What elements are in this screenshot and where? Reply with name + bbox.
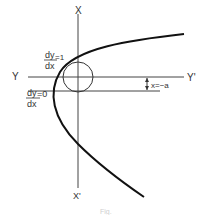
slope-one-value: =1 (55, 53, 65, 62)
axis-label-y-prime: Y' (187, 72, 196, 83)
axis-label-x-prime: X' (73, 191, 81, 201)
slope-zero-denominator: dx (27, 99, 37, 109)
slope-zero-numerator: dy (27, 88, 37, 98)
parabola-curve (54, 34, 184, 197)
slope-one-denominator: dx (45, 61, 55, 71)
slope-zero-value: =0 (37, 89, 47, 99)
offset-label: x=−a (151, 81, 169, 90)
slope-one-numerator: dy (45, 50, 55, 60)
figure-caption: Fig. (100, 208, 112, 215)
axis-label-y: Y (12, 71, 19, 82)
arrow-head-down-icon (145, 86, 149, 90)
parabola-diagram: X X' Y Y' dy =1 dx dy =0 dx x=−a Fig. (0, 0, 210, 215)
arrow-head-up-icon (145, 78, 149, 82)
axis-label-x: X (75, 5, 82, 16)
